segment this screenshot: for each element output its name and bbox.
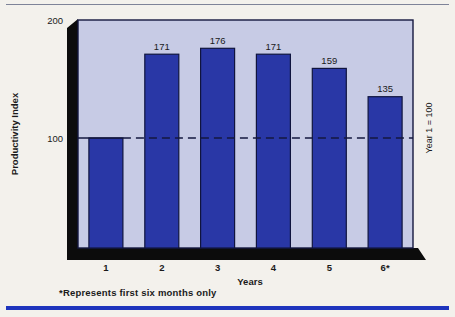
x-tick-label: 4 [271, 262, 277, 273]
figure-page: 171176171159135 123456* 200 100 Producti… [0, 0, 455, 317]
x-tick-label: 5 [327, 262, 333, 273]
chart-footnote: *Represents first six months only [59, 287, 217, 298]
x-tick-layer: 123456* [103, 262, 390, 273]
bar [201, 48, 235, 248]
x-tick-label: 3 [215, 262, 220, 273]
right-axis-note: Year 1 = 100 [424, 103, 434, 154]
bar [145, 54, 179, 248]
bar [256, 54, 290, 248]
bar-value-label: 171 [154, 41, 170, 52]
bar [312, 68, 346, 248]
x-tick-label: 6* [381, 262, 390, 273]
plot-area [78, 20, 413, 248]
bar-value-label: 176 [210, 35, 226, 46]
y-axis-title: Productivity Index [9, 92, 20, 175]
bar-value-label: 135 [377, 83, 393, 94]
bar-value-label: 171 [265, 41, 281, 52]
bar-value-label: 159 [321, 55, 337, 66]
bar [89, 138, 123, 248]
bar [368, 97, 402, 248]
y-tick-200: 200 [47, 15, 63, 26]
x-tick-label: 1 [103, 262, 109, 273]
y-tick-100: 100 [47, 133, 63, 144]
x-tick-label: 2 [159, 262, 164, 273]
bottom-divider-rule [6, 306, 449, 310]
x-axis-title: Years [237, 276, 262, 287]
productivity-chart: 171176171159135 123456* 200 100 Producti… [0, 0, 455, 317]
